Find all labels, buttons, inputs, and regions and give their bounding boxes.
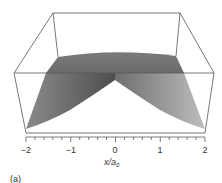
x-tick-labels: −2 −1 0 1 2 [21,145,208,155]
surface-plot: −2 −1 0 1 2 x/a0 (a) [0,0,222,183]
x-tick-label: 1 [157,145,162,155]
bounding-box-back [53,13,180,57]
panel-label: (a) [10,174,21,183]
surface-left [26,73,115,129]
x-axis [26,137,205,142]
x-axis-label: x/a0 [103,157,120,168]
x-tick-label: 2 [202,145,207,155]
surface-right [115,73,205,129]
x-tick-label: −1 [66,145,76,155]
x-tick-label: 0 [112,145,117,155]
surface-back [46,52,184,73]
x-tick-label: −2 [21,145,31,155]
